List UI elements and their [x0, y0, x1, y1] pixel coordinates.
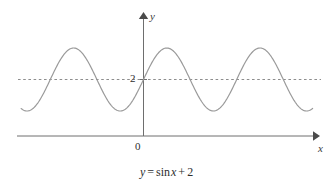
figure-caption: y=sin x+2 — [0, 166, 333, 179]
caption-function: sin — [156, 165, 170, 179]
sine-function-figure: y x 0 2 y=sin x+2 — [0, 0, 333, 190]
x-axis-arrow-icon — [313, 131, 320, 141]
y-axis-label: y — [150, 11, 155, 22]
x-axis-label: x — [318, 143, 323, 154]
plot-canvas — [0, 0, 333, 190]
caption-equals: = — [145, 165, 156, 179]
caption-plus: + — [176, 165, 187, 179]
caption-constant: 2 — [187, 165, 193, 179]
y-tick-label-2: 2 — [130, 73, 136, 84]
origin-label: 0 — [135, 141, 141, 152]
y-axis-arrow-icon — [139, 12, 148, 19]
